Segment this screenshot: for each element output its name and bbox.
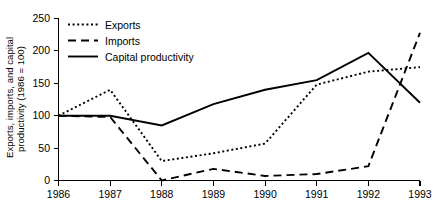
y-axis-title: Exports, imports, and capital productivi… [4, 37, 26, 158]
x-axis-ticks [59, 181, 421, 186]
x-axis-tick-labels: 19861987198819891990199119921993 [47, 188, 432, 200]
legend-label-capital-productivity: Capital productivity [105, 51, 194, 63]
legend-label-imports: Imports [105, 35, 140, 47]
series-line-exports [59, 67, 421, 161]
legend-entry-exports: Exports [68, 19, 141, 31]
x-tick-label-1990: 1990 [253, 188, 277, 200]
y-tick-label-200: 200 [32, 44, 50, 56]
legend-entry-imports: Imports [68, 35, 140, 47]
x-tick-label-1986: 1986 [47, 188, 71, 200]
y-axis-title-line-2: productivity (1986 = 100) [15, 46, 26, 152]
chart-figure: Exports, imports, and capital productivi… [0, 0, 437, 206]
y-tick-label-0: 0 [44, 174, 50, 186]
x-tick-label-1989: 1989 [202, 188, 226, 200]
y-tick-label-150: 150 [32, 77, 50, 89]
y-axis-tick-labels: 0 50 100 150 200 250 [32, 12, 50, 186]
y-axis-ticks [54, 19, 59, 181]
y-tick-label-50: 50 [38, 142, 50, 154]
y-tick-label-100: 100 [32, 109, 50, 121]
x-tick-label-1991: 1991 [305, 188, 329, 200]
legend-entry-capital-productivity: Capital productivity [68, 51, 194, 63]
series-line-capital-productivity [59, 53, 421, 126]
x-tick-label-1988: 1988 [150, 188, 174, 200]
x-tick-label-1992: 1992 [357, 188, 381, 200]
line-chart-svg: Exports, imports, and capital productivi… [0, 0, 437, 206]
legend-label-exports: Exports [105, 19, 141, 31]
y-axis-title-line-1: Exports, imports, and capital [4, 37, 15, 158]
y-tick-label-250: 250 [32, 12, 50, 24]
x-tick-label-1987: 1987 [98, 188, 122, 200]
x-tick-label-1993: 1993 [408, 188, 432, 200]
chart-legend: Exports Imports Capital productivity [68, 19, 194, 63]
